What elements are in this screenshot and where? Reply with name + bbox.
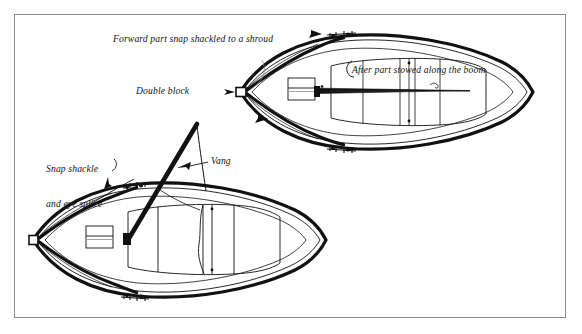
upper-boom-fitting-aft (408, 120, 411, 123)
label-after-part: After part stowed along the boom (352, 64, 486, 76)
snap-shackle-leader (112, 159, 116, 171)
lower-boom-fitting-fwd (211, 208, 214, 211)
label-double-block: Double block (136, 85, 189, 97)
figure-page: Forward part snap shackled to a shroud D… (0, 0, 582, 334)
label-snap-shackle-line1: Snap shackle (46, 163, 102, 175)
label-forward-part: Forward part snap shackled to a shroud (113, 33, 273, 45)
label-snap-shackle-line2: and eye splice (46, 198, 102, 210)
after-part-anchor (321, 85, 324, 88)
label-vang: Vang (211, 155, 231, 167)
lower-double-block-icon (29, 236, 38, 245)
upper-double-block-icon (236, 88, 246, 97)
upper-direction-arrow-1 (224, 89, 235, 95)
upper-boat (224, 30, 533, 153)
upper-forward-hatch (288, 78, 315, 100)
lower-boom-fitting-aft (211, 269, 214, 272)
lower-vang-thin-leg (197, 126, 206, 191)
upper-direction-arrow-3 (309, 30, 322, 38)
vang-leader (190, 162, 208, 166)
vang-arrowhead (177, 162, 191, 170)
label-snap-shackle: Snap shackle and eye splice (46, 140, 102, 232)
upper-gooseneck-block (314, 86, 320, 97)
